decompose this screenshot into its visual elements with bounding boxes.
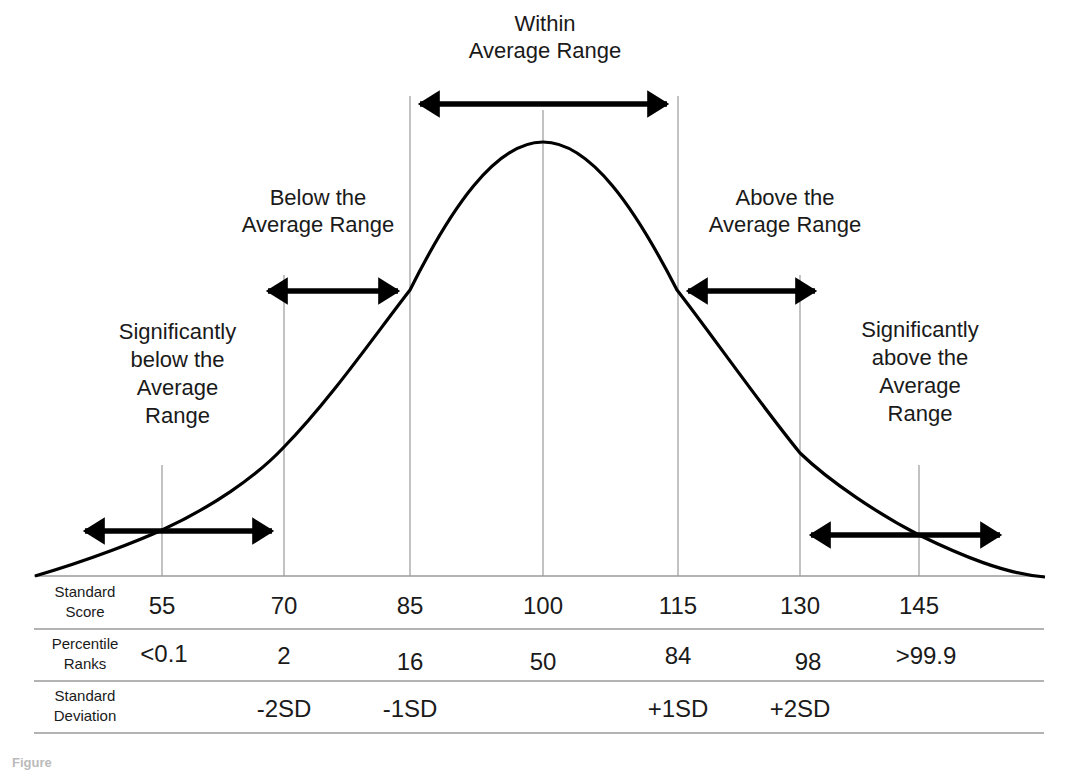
percentile-cell: 2 bbox=[224, 642, 344, 670]
score-cell: 85 bbox=[350, 592, 470, 620]
percentile-cell: >99.9 bbox=[866, 642, 986, 670]
sd-cell: +2SD bbox=[740, 695, 860, 723]
percentile-cell: 50 bbox=[483, 648, 603, 676]
row-header-standard-deviation: Standard Deviation bbox=[30, 686, 140, 726]
score-cell: 145 bbox=[859, 592, 979, 620]
percentile-cell: 16 bbox=[350, 648, 470, 676]
within-range-label: Within Average Range bbox=[440, 10, 650, 64]
sd-cell: +1SD bbox=[618, 695, 738, 723]
above-range-label: Above the Average Range bbox=[680, 184, 890, 238]
significantly-below-label: Significantly below the Average Range bbox=[100, 318, 255, 430]
reference-lines bbox=[162, 96, 919, 576]
score-cell: 100 bbox=[483, 592, 603, 620]
sd-cell: -2SD bbox=[224, 695, 344, 723]
percentile-cell: 98 bbox=[748, 648, 868, 676]
significantly-above-label: Significantly above the Average Range bbox=[840, 316, 1000, 428]
percentile-cell: 84 bbox=[618, 642, 738, 670]
score-cell: 115 bbox=[618, 592, 738, 620]
below-range-label: Below the Average Range bbox=[223, 184, 413, 238]
sd-cell: -1SD bbox=[350, 695, 470, 723]
figure-caption: Figure bbox=[12, 755, 52, 770]
score-cell: 70 bbox=[224, 592, 344, 620]
score-cell: 55 bbox=[102, 592, 222, 620]
score-cell: 130 bbox=[740, 592, 860, 620]
percentile-cell: <0.1 bbox=[104, 640, 224, 668]
